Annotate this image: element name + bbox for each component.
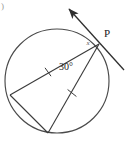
chord-a-to-b	[10, 95, 48, 133]
circle-tangent-diagram: P x 30° )	[0, 0, 129, 145]
tangent-line	[69, 9, 124, 70]
point-label-p: P	[104, 27, 110, 39]
chord-p-to-a	[10, 44, 99, 95]
geometry-figure: P x 30° )	[0, 0, 129, 145]
item-marker: )	[1, 1, 4, 11]
angle-label-30-degrees: 30°	[59, 61, 73, 72]
